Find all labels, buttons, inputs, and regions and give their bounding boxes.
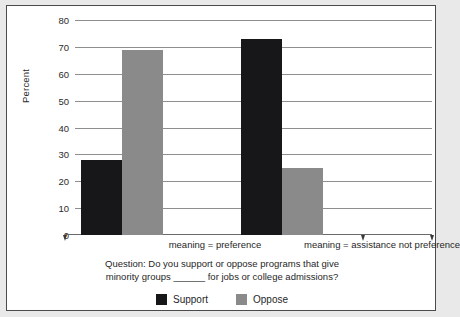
y-axis-tick-label: 80 [23, 15, 69, 26]
bar-support-group2 [241, 39, 282, 235]
y-axis-tick-label: 30 [23, 149, 69, 160]
gridline [75, 20, 432, 21]
bar-oppose-group1 [122, 50, 163, 235]
chart-figure: 01020304050607080 Percent meaning = pref… [6, 5, 436, 311]
x-axis-group-labels: meaning = preferencemeaning = assistance… [65, 239, 437, 255]
y-axis-tick-label: 70 [23, 41, 69, 52]
question-line-1: Question: Do you support or oppose progr… [7, 258, 437, 271]
legend-item-support: Support [156, 294, 208, 305]
chart-legend: SupportOppose [7, 294, 437, 305]
gridline [75, 235, 432, 236]
legend-swatch-oppose [236, 294, 247, 305]
x-axis-label-group2: meaning = assistance not preference [304, 239, 460, 250]
bar-oppose-group2 [282, 168, 323, 235]
y-axis-title: Percent [20, 69, 31, 103]
legend-label: Oppose [253, 294, 288, 305]
legend-label: Support [173, 294, 208, 305]
y-axis-tick-label: 40 [23, 122, 69, 133]
y-axis-tick-label: 10 [23, 203, 69, 214]
y-axis-tick-label: 20 [23, 176, 69, 187]
legend-swatch-support [156, 294, 167, 305]
y-axis-tick-labels: 01020304050607080 [21, 20, 69, 235]
bar-support-group1 [81, 160, 122, 235]
plot-area [75, 20, 432, 235]
question-line-2: minority groups ______ for jobs or colle… [7, 271, 437, 284]
legend-item-oppose: Oppose [236, 294, 288, 305]
x-axis-label-group1: meaning = preference [169, 239, 262, 250]
question-caption: Question: Do you support or oppose progr… [7, 258, 437, 283]
